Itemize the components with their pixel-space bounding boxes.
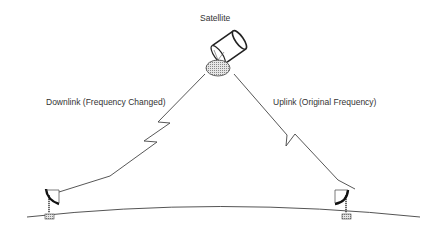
downlink-label: Downlink (Frequency Changed)	[46, 97, 166, 107]
right-ground-dish-icon	[335, 190, 351, 219]
left-ground-dish-icon	[45, 189, 59, 219]
earth-horizon-line	[27, 207, 420, 218]
satellite-icon	[206, 29, 249, 76]
uplink-label: Uplink (Original Frequency)	[273, 97, 376, 107]
satellite-diagram	[0, 0, 437, 231]
uplink-signal-line	[234, 74, 355, 189]
satellite-antenna-dish-icon	[206, 60, 230, 76]
satellite-label: Satellite	[200, 13, 230, 23]
downlink-signal-line	[59, 74, 205, 192]
